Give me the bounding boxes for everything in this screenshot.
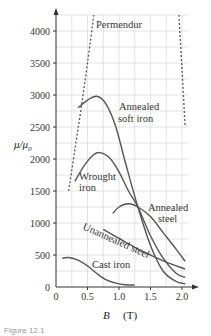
y-tick-label: 4000 bbox=[30, 26, 50, 37]
y-tick-label: 2500 bbox=[30, 122, 50, 133]
label-cast-iron: Cast iron bbox=[92, 259, 131, 270]
y-axis-arrow-icon bbox=[54, 8, 59, 15]
svg-text:μ/μ0: μ/μ0 bbox=[13, 138, 32, 153]
y-tick-label: 1000 bbox=[30, 218, 50, 229]
label-annealed-steel-1: Annealed bbox=[148, 202, 189, 213]
y-tick-label: 2000 bbox=[30, 154, 50, 165]
x-axis-title: B (T) bbox=[103, 309, 137, 322]
curve-permendur bbox=[69, 15, 94, 191]
y-axis-title: μ/μ0 bbox=[13, 138, 32, 153]
x-tick-label: 1.0 bbox=[113, 291, 126, 302]
curve-labels: Permendur Annealed soft iron Wrought iro… bbox=[79, 19, 189, 270]
y-tick-label: 500 bbox=[35, 250, 50, 261]
x-tick-label: 0.5 bbox=[81, 291, 94, 302]
label-annealed-steel-2: steel bbox=[158, 213, 177, 224]
permeability-chart: 0500100015002000250030003500400000.51.01… bbox=[0, 0, 211, 336]
svg-text:B: B bbox=[103, 309, 110, 321]
y-tick-label: 0 bbox=[45, 282, 50, 293]
y-tick-label: 1500 bbox=[30, 186, 50, 197]
label-soft-iron-2: soft iron bbox=[118, 113, 154, 124]
svg-text:(T): (T) bbox=[123, 309, 137, 322]
x-axis-arrow-icon bbox=[192, 285, 199, 290]
x-tick-label: 2.0 bbox=[176, 291, 189, 302]
label-permendur: Permendur bbox=[96, 19, 143, 30]
x-tick-label: 0 bbox=[54, 291, 59, 302]
y-tick-label: 3500 bbox=[30, 58, 50, 69]
label-soft-iron-1: Annealed bbox=[119, 101, 160, 112]
label-wrought-1: Wrought bbox=[79, 171, 116, 182]
label-unannealed-steel: Unannealed steel bbox=[81, 221, 151, 260]
x-tick-label: 1.5 bbox=[144, 291, 157, 302]
figure-caption: Figure 12.1 bbox=[4, 326, 44, 335]
y-tick-label: 3000 bbox=[30, 90, 50, 101]
label-wrought-2: iron bbox=[79, 182, 97, 193]
